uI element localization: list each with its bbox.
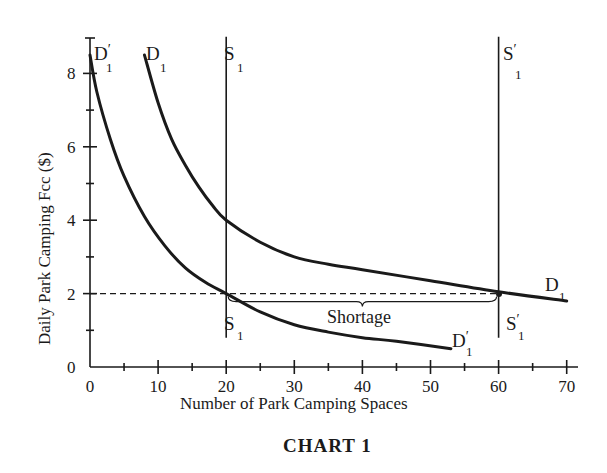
x-tick-label: 70	[558, 377, 575, 396]
demand-curve-d1-prime	[90, 55, 451, 349]
label-s1-prime-bottom: S′ 1	[506, 312, 525, 343]
svg-text:1: 1	[466, 344, 473, 359]
svg-text:S′: S′	[503, 42, 517, 64]
svg-text:D: D	[545, 274, 559, 295]
svg-text:1: 1	[106, 60, 113, 75]
y-ticks: 02468	[67, 64, 97, 377]
svg-text:1: 1	[515, 67, 522, 82]
x-tick-label: 0	[86, 377, 95, 396]
label-s1-bottom: S 1	[224, 313, 244, 343]
x-ticks: 010203040506070	[86, 360, 575, 396]
x-tick-label: 50	[422, 377, 439, 396]
svg-text:S: S	[224, 313, 235, 334]
y-axis-title: Daily Park Camping Fcc ($)	[35, 152, 54, 345]
x-tick-label: 60	[490, 377, 507, 396]
svg-text:S: S	[224, 43, 235, 64]
svg-text:1: 1	[518, 328, 525, 343]
x-tick-label: 10	[150, 377, 167, 396]
label-s1-prime-top: S′ 1	[503, 42, 522, 82]
label-d1-prime-top: D′ 1	[94, 42, 113, 75]
svg-text:D: D	[146, 43, 160, 64]
y-tick-label: 6	[67, 138, 76, 157]
chart-caption: CHART 1	[283, 435, 372, 456]
svg-text:1: 1	[559, 289, 566, 304]
svg-text:1: 1	[237, 328, 244, 343]
svg-text:1: 1	[237, 60, 244, 75]
y-tick-label: 4	[67, 211, 76, 230]
y-tick-label: 0	[67, 358, 76, 377]
y-tick-label: 8	[67, 64, 76, 83]
shortage-label: Shortage	[327, 307, 391, 327]
intersection-point	[496, 291, 502, 297]
y-tick-label: 2	[67, 285, 76, 304]
label-d1-prime-bottom: D′ 1	[452, 329, 473, 359]
shortage-brace	[228, 297, 496, 307]
chart-canvas: 02468 010203040506070 D′ 1 D 1 S 1 S′ 1 …	[0, 0, 607, 473]
demand-curve-d1	[144, 55, 566, 301]
svg-text:1: 1	[160, 60, 167, 75]
x-axis-title: Number of Park Camping Spaces	[180, 394, 408, 413]
